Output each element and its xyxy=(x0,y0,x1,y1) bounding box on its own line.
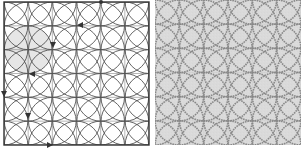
quilted-fabric-photo xyxy=(153,0,302,151)
fabric-texture xyxy=(155,0,301,145)
orange-peel-diagram xyxy=(0,0,153,151)
fabric-photo-panel xyxy=(153,0,302,151)
diagram-panel xyxy=(0,0,153,151)
start-dot-icon xyxy=(99,0,103,4)
